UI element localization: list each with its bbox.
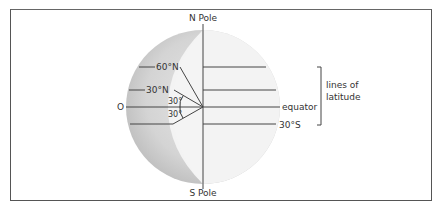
lat-30s-label: 30°S: [279, 120, 301, 130]
south-pole-label: S Pole: [189, 188, 217, 198]
latitude-bracket: [317, 67, 321, 125]
lat-30n-label: 30°N: [146, 85, 169, 95]
bracket-label-line1: lines of: [326, 80, 359, 90]
equator-label: equator: [282, 102, 318, 112]
center-label: O: [117, 102, 124, 112]
angle-upper-label: 30°: [168, 97, 182, 106]
angle-lower-label: 30°: [168, 110, 182, 119]
globe-diagram: N Pole S Pole O 60°N 30°N 30° 30° equato…: [0, 0, 444, 214]
lat-60n-label: 60°N: [156, 62, 179, 72]
bracket-label-line2: latitude: [326, 92, 361, 102]
north-pole-label: N Pole: [189, 13, 218, 23]
